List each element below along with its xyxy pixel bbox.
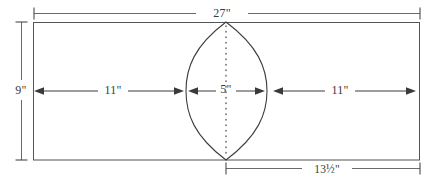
dimension-top-label: 27" [213,6,231,20]
dimension-bottom-label: 13½" [314,163,340,175]
dimension-left-label: 9" [15,83,26,97]
dimension-left-9: 9" [15,22,27,160]
technical-diagram: 27" 9" 11" 5" [0,0,436,183]
dimension-top-27: 27" [34,6,420,20]
dimension-bottom-13half: 13½" [226,163,420,175]
dimension-inner-center-label: 5" [220,82,231,96]
dimension-inner-left-label: 11" [104,83,121,97]
dimension-inner-right-label: 11" [331,83,348,97]
diagram-canvas: 27" 9" 11" 5" [0,0,436,183]
